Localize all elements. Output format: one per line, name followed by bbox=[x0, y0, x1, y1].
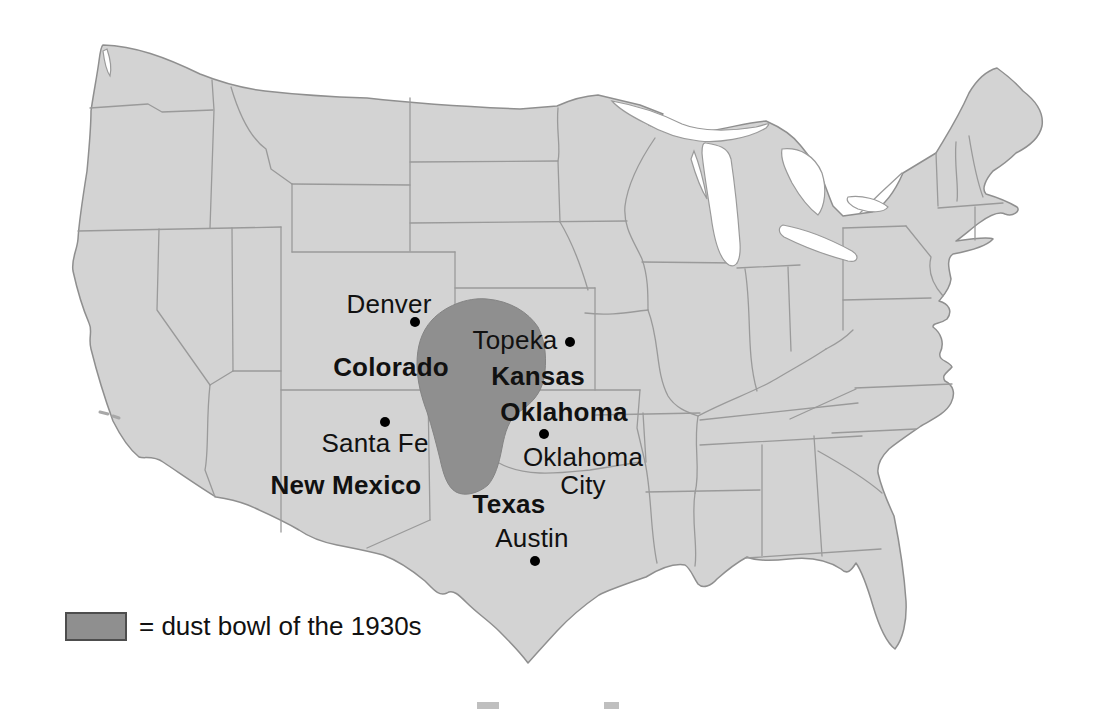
state-label-texas: Texas bbox=[473, 490, 546, 518]
legend-label: = dust bowl of the 1930s bbox=[139, 611, 422, 642]
city-label-santa-fe: Santa Fe bbox=[321, 429, 428, 457]
state-label-kansas: Kansas bbox=[491, 362, 585, 390]
state-label-new-mexico: New Mexico bbox=[271, 471, 422, 499]
cropped-artifact-left bbox=[477, 702, 499, 709]
lake-ontario bbox=[847, 196, 888, 211]
city-marker-topeka bbox=[565, 337, 575, 347]
city-label-topeka: Topeka bbox=[472, 326, 557, 354]
legend-swatch bbox=[65, 612, 127, 641]
city-label-oklahoma-city-line1: Oklahoma bbox=[523, 443, 643, 471]
state-label-oklahoma: Oklahoma bbox=[500, 398, 627, 426]
city-marker-austin bbox=[530, 556, 540, 566]
cropped-artifact-right bbox=[604, 702, 619, 709]
city-label-austin: Austin bbox=[495, 524, 568, 552]
city-label-denver: Denver bbox=[346, 290, 431, 318]
legend: = dust bowl of the 1930s bbox=[65, 611, 422, 642]
state-label-colorado: Colorado bbox=[333, 353, 449, 381]
city-marker-oklahoma-city bbox=[539, 429, 549, 439]
city-marker-santa-fe bbox=[380, 417, 390, 427]
dust-bowl-map-figure: Denver Colorado Topeka Kansas Oklahoma O… bbox=[0, 0, 1106, 709]
